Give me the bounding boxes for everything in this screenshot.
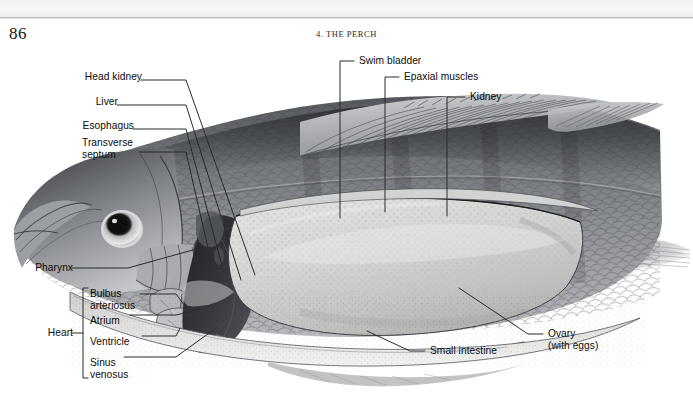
label-epaxial-muscles: Epaxial muscles	[404, 71, 478, 83]
label-kidney: Kidney	[470, 91, 501, 103]
label-pharynx: Pharynx	[8, 262, 73, 274]
label-liver: Liver	[8, 96, 118, 108]
header-rule-shadow	[0, 18, 693, 19]
label-ovary: Ovary (with eggs)	[548, 328, 598, 351]
transverse-septum-region	[196, 212, 224, 248]
eye	[101, 210, 143, 248]
label-ventricle: Ventricle	[90, 336, 130, 348]
label-head-kidney: Head kidney	[8, 71, 142, 83]
page-top-band	[0, 0, 693, 17]
label-sinus-venosus: Sinus venosus	[90, 357, 128, 380]
label-esophagus: Esophagus	[8, 120, 134, 132]
label-transverse-septum: Transverse septum	[82, 137, 133, 160]
textbook-page: 86 4. THE PERCH	[0, 0, 693, 393]
label-atrium: Atrium	[90, 315, 120, 327]
label-swim-bladder: Swim bladder	[359, 55, 421, 67]
running-head: 4. THE PERCH	[0, 29, 693, 39]
label-bulbus-arteriosus: Bulbus arteriosus	[90, 288, 135, 311]
label-small-intestine: Small intestine	[430, 345, 497, 357]
label-heart: Heart	[8, 327, 73, 339]
